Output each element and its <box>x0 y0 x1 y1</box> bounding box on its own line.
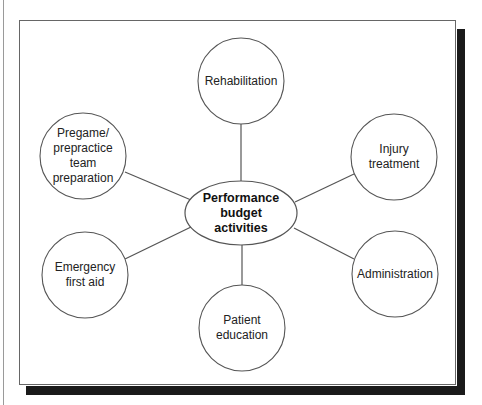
edge-emergency <box>125 227 191 259</box>
node-label-rehabilitation: Rehabilitation <box>198 38 284 124</box>
node-label-patient-education: Patient education <box>199 285 285 371</box>
edge-injury-treatment <box>295 174 354 202</box>
node-label-injury-treatment: Injury treatment <box>351 114 437 200</box>
edge-administration <box>294 228 354 259</box>
edge-pregame <box>125 172 191 200</box>
node-label-administration: Administration <box>352 231 438 317</box>
center-label: Performance budget activities <box>185 181 297 245</box>
node-label-pregame: Pregame/ prepractice team preparation <box>40 113 126 199</box>
node-label-emergency: Emergency first aid <box>42 232 128 318</box>
